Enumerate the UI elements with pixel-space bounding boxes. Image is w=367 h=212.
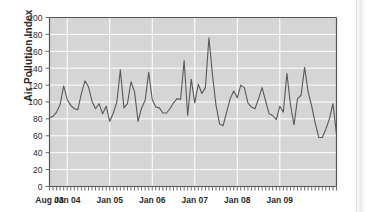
svg-text:80: 80 [33, 114, 43, 124]
svg-text:20: 20 [33, 165, 43, 175]
chart-figure: Air Pollution Index 02040608010012014016… [0, 0, 367, 212]
svg-text:60: 60 [33, 131, 43, 141]
line-chart-plot: 020406080100120140160180200 Aug 03Jan 04… [0, 0, 367, 212]
y-axis-title: Air Pollution Index [23, 0, 34, 136]
svg-text:Jan 05: Jan 05 [97, 195, 124, 205]
svg-text:Jan 09: Jan 09 [267, 195, 294, 205]
svg-text:Jan 04: Jan 04 [54, 195, 81, 205]
svg-text:Jan 08: Jan 08 [224, 195, 251, 205]
svg-text:40: 40 [33, 148, 43, 158]
svg-text:Jan 06: Jan 06 [139, 195, 166, 205]
page-edge-line [356, 0, 357, 212]
svg-text:0: 0 [38, 182, 43, 192]
x-axis-ticks: Aug 03Jan 04Jan 05Jan 06Jan 07Jan 08Jan … [35, 187, 336, 205]
svg-text:Jan 07: Jan 07 [182, 195, 209, 205]
